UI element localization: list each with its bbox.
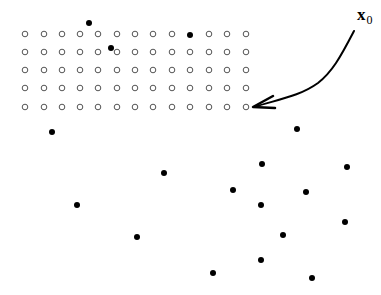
open-grid-point [22,104,28,110]
point-lattice-diagram [0,0,381,295]
open-grid-point [187,49,193,55]
open-grid-point [243,49,249,55]
open-grid-point [169,67,175,73]
open-grid-point [224,104,230,110]
filled-point [210,270,216,276]
open-grid-point [22,85,28,91]
open-grid-point [224,67,230,73]
filled-point [258,257,264,263]
x0-subscript: 0 [367,13,373,27]
open-grid-point [150,31,156,37]
open-grid-point [150,85,156,91]
open-grid-point [77,31,83,37]
open-grid-point [132,67,138,73]
open-grid-point [77,104,83,110]
open-grid-point [150,49,156,55]
open-grid-point [22,67,28,73]
open-grid-point [114,104,120,110]
open-grid-point [132,104,138,110]
open-grid-point [114,49,120,55]
open-grid-point [206,31,212,37]
open-grid-point [206,67,212,73]
open-grid-point [77,67,83,73]
open-grid-point [77,85,83,91]
x0-symbol: x [357,5,366,24]
open-grid-point [59,31,65,37]
filled-point [258,202,264,208]
open-grid-point [206,85,212,91]
open-grid-point [169,49,175,55]
open-grid-point [41,67,47,73]
open-grid-point [132,85,138,91]
open-grid-point [95,31,101,37]
arrow-shaft [254,31,354,107]
open-grid-point [77,49,83,55]
filled-point [49,129,55,135]
open-grid-point [59,67,65,73]
filled-point [344,164,350,170]
open-grid-point [59,85,65,91]
open-grid-point [187,67,193,73]
filled-point [309,275,315,281]
open-grid-point [243,67,249,73]
open-grid-point [132,31,138,37]
filled-point [294,126,300,132]
filled-point [74,202,80,208]
open-grid-point [41,104,47,110]
open-grid-point [187,104,193,110]
open-grid-point [150,104,156,110]
open-circle-grid [22,31,249,110]
open-grid-point [187,85,193,91]
open-grid-point [59,49,65,55]
open-grid-point [22,31,28,37]
filled-point [108,45,114,51]
open-grid-point [243,31,249,37]
open-grid-point [114,85,120,91]
open-grid-point [95,49,101,55]
open-grid-point [22,49,28,55]
open-grid-point [243,104,249,110]
open-grid-point [95,67,101,73]
open-grid-point [132,49,138,55]
open-grid-point [224,85,230,91]
open-grid-point [41,31,47,37]
open-grid-point [169,31,175,37]
filled-points [49,20,350,281]
filled-point [134,234,140,240]
filled-point [187,32,193,38]
open-grid-point [95,104,101,110]
filled-point [161,170,167,176]
filled-point [303,189,309,195]
open-grid-point [150,67,156,73]
open-grid-point [169,85,175,91]
curved-arrow-icon [253,31,354,108]
filled-point [280,232,286,238]
open-grid-point [114,67,120,73]
open-grid-point [95,85,101,91]
open-grid-point [41,49,47,55]
open-grid-point [41,85,47,91]
filled-point [259,161,265,167]
filled-point [342,219,348,225]
open-grid-point [169,104,175,110]
x0-label: x0 [357,6,373,23]
open-grid-point [59,104,65,110]
open-grid-point [206,104,212,110]
open-grid-point [224,49,230,55]
open-grid-point [224,31,230,37]
filled-point [86,20,92,26]
open-grid-point [114,31,120,37]
open-grid-point [206,49,212,55]
filled-point [230,187,236,193]
open-grid-point [243,85,249,91]
